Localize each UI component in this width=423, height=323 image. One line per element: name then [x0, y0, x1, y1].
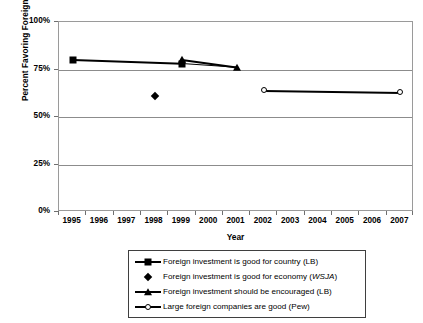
- x-tick-mark: [222, 211, 223, 215]
- legend-marker-diamond-icon: [133, 270, 163, 284]
- x-tick-label: 2006: [363, 216, 381, 225]
- data-point-marker: [261, 87, 267, 93]
- x-tick-mark: [58, 211, 59, 215]
- legend-marker-line-square-icon: [133, 255, 163, 269]
- x-tick-mark: [331, 211, 332, 215]
- legend-item[interactable]: Foreign investment is good for country (…: [133, 254, 361, 269]
- series-line-segment: [73, 59, 182, 65]
- legend-item-label: Large foreign companies are good (Pew): [163, 302, 310, 312]
- x-tick-label: 2003: [281, 216, 299, 225]
- x-tick-mark: [304, 211, 305, 215]
- legend-item[interactable]: Large foreign companies are good (Pew): [133, 299, 361, 314]
- data-point-marker: [69, 57, 76, 64]
- y-tick-label: 50%: [34, 112, 50, 120]
- x-tick-label: 1997: [117, 216, 135, 225]
- x-tick-mark: [195, 211, 196, 215]
- x-tick-mark: [276, 211, 277, 215]
- y-tick-label: 0%: [38, 207, 50, 215]
- x-tick-label: 2007: [390, 216, 408, 225]
- series-layer: [59, 22, 412, 210]
- series-line-segment: [264, 90, 401, 94]
- x-tick-mark: [113, 211, 114, 215]
- x-tick-mark: [412, 211, 413, 215]
- legend-item-label: Foreign investment should be encouraged …: [163, 287, 332, 297]
- x-tick-mark: [358, 211, 359, 215]
- plot-area: [58, 21, 413, 211]
- x-tick-label: 1995: [63, 216, 81, 225]
- legend-item[interactable]: Foreign investment is good for economy (…: [133, 269, 361, 284]
- x-axis-title: Year: [58, 232, 413, 242]
- x-tick-mark: [85, 211, 86, 215]
- data-point-marker: [178, 56, 186, 63]
- x-tick-label: 2005: [336, 216, 354, 225]
- legend-marker-line-triangle-icon: [133, 285, 163, 299]
- x-tick-mark: [167, 211, 168, 215]
- legend-item[interactable]: Foreign investment should be encouraged …: [133, 284, 361, 299]
- x-tick-mark: [386, 211, 387, 215]
- x-tick-label: 2000: [199, 216, 217, 225]
- chart-legend: Foreign investment is good for country (…: [128, 250, 366, 318]
- y-axis-ticks: 100%75%50%25%0%: [0, 0, 58, 212]
- y-tick-label: 100%: [29, 17, 50, 25]
- x-tick-label: 2001: [226, 216, 244, 225]
- x-axis-labels: 1995199619971998199920002001200220032004…: [58, 216, 413, 228]
- y-tick-label: 75%: [34, 65, 50, 73]
- x-tick-label: 2002: [254, 216, 272, 225]
- data-point-marker: [233, 63, 241, 70]
- legend-item-label: Foreign investment is good for country (…: [163, 257, 318, 267]
- x-tick-mark: [140, 211, 141, 215]
- data-point-marker: [150, 92, 158, 100]
- x-tick-label: 2004: [308, 216, 326, 225]
- x-tick-label: 1998: [144, 216, 162, 225]
- chart-container: Percent Favoring Foreign Investment 100%…: [0, 0, 423, 323]
- x-tick-label: 1999: [172, 216, 190, 225]
- series-line-segment: [182, 63, 237, 68]
- x-tick-label: 1996: [90, 216, 108, 225]
- y-tick-label: 25%: [34, 160, 50, 168]
- legend-marker-line-circle-icon: [133, 300, 163, 314]
- legend-item-label: Foreign investment is good for economy (…: [163, 272, 337, 282]
- data-point-marker: [397, 89, 403, 95]
- x-tick-mark: [249, 211, 250, 215]
